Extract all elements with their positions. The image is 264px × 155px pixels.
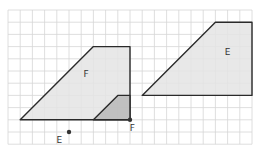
grid-diagram: FE EF xyxy=(0,0,264,155)
point-f-label: F xyxy=(130,123,135,133)
point-e xyxy=(67,130,71,134)
points: EF xyxy=(56,118,135,145)
point-f xyxy=(128,118,132,122)
shape-e-label: E xyxy=(225,47,231,57)
shape-f-label: F xyxy=(83,69,88,79)
diagram-canvas: FE EF xyxy=(0,0,264,155)
point-e-label: E xyxy=(56,135,62,145)
